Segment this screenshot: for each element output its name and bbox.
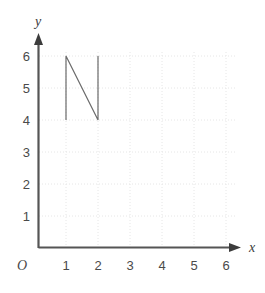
y-tick-label-4: 4 bbox=[23, 113, 30, 128]
x-tick-label-2: 2 bbox=[94, 258, 101, 273]
x-tick-labels: 1 2 3 4 5 6 bbox=[62, 258, 229, 273]
grid-horizontal-lines bbox=[39, 56, 236, 216]
x-tick-label-1: 1 bbox=[62, 258, 69, 273]
x-tick-label-4: 4 bbox=[158, 258, 165, 273]
origin-label: O bbox=[17, 258, 27, 273]
x-axis bbox=[39, 243, 242, 252]
y-axis-label: y bbox=[33, 14, 42, 29]
y-tick-labels: 6 5 4 3 2 1 bbox=[23, 49, 30, 224]
coordinate-plane-figure: 6 5 4 3 2 1 1 2 3 4 5 6 y x O bbox=[0, 0, 265, 293]
plot-svg: 6 5 4 3 2 1 1 2 3 4 5 6 y x O bbox=[0, 0, 265, 293]
x-tick-label-3: 3 bbox=[126, 258, 133, 273]
y-axis-arrowhead-icon bbox=[34, 33, 43, 45]
x-axis-arrowhead-icon bbox=[229, 243, 241, 252]
x-tick-label-6: 6 bbox=[222, 258, 229, 273]
y-tick-label-6: 6 bbox=[23, 49, 30, 64]
y-tick-label-3: 3 bbox=[23, 145, 30, 160]
y-tick-label-5: 5 bbox=[23, 81, 30, 96]
x-axis-label: x bbox=[248, 240, 256, 255]
y-axis bbox=[34, 33, 43, 248]
x-tick-label-5: 5 bbox=[190, 258, 197, 273]
y-tick-label-1: 1 bbox=[23, 209, 30, 224]
y-tick-label-2: 2 bbox=[23, 177, 30, 192]
grid-vertical-lines bbox=[66, 52, 226, 248]
